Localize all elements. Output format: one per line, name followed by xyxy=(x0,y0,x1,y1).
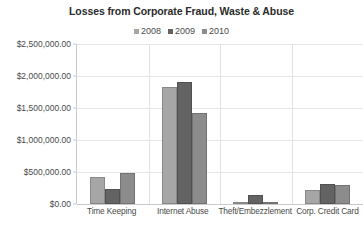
bar-chart: Losses from Corporate Fraud, Waste & Abu… xyxy=(0,0,363,231)
y-axis-tick-label: $1,000,000.00 xyxy=(17,135,71,145)
x-axis-label: Corp. Credit Card xyxy=(292,206,363,216)
legend-item-2010[interactable]: 2010 xyxy=(202,27,229,36)
x-axis-labels: Time KeepingInternet AbuseTheft/Embezzle… xyxy=(76,206,363,216)
y-axis: $2,500,000.00$2,000,000.00$1,500,000.00$… xyxy=(0,44,76,204)
bar-fill xyxy=(120,173,135,204)
legend-label: 2008 xyxy=(141,27,161,36)
chart-title: Losses from Corporate Fraud, Waste & Abu… xyxy=(0,5,363,17)
bar-group xyxy=(220,44,292,204)
x-axis-label: Theft/Embezzlement xyxy=(218,206,291,216)
plot-wrapper: $2,500,000.00$2,000,000.00$1,500,000.00$… xyxy=(0,44,363,204)
y-axis-tick-label: $500,000.00 xyxy=(24,167,71,177)
legend-swatch-icon xyxy=(168,29,173,34)
bar-fill xyxy=(248,195,263,204)
bar-fill xyxy=(335,185,350,204)
bar-fill xyxy=(105,189,120,204)
legend-label: 2010 xyxy=(209,27,229,36)
bar-fill xyxy=(192,113,207,204)
legend-item-2009[interactable]: 2009 xyxy=(168,27,195,36)
chart-legend: 200820092010 xyxy=(0,27,363,36)
y-axis-tick-label: $0.00 xyxy=(50,199,71,209)
bar-fill xyxy=(177,82,192,204)
bar-group xyxy=(149,44,221,204)
bar-fill xyxy=(305,190,320,204)
x-axis-label: Internet Abuse xyxy=(147,206,218,216)
bar-fill xyxy=(320,184,335,204)
bar-fill xyxy=(263,202,278,204)
legend-swatch-icon xyxy=(134,29,139,34)
bar-fill xyxy=(162,87,177,204)
legend-label: 2009 xyxy=(175,27,195,36)
y-axis-tick-label: $2,500,000.00 xyxy=(17,39,71,49)
x-axis-label: Time Keeping xyxy=(76,206,147,216)
bar-fill xyxy=(233,202,248,204)
y-axis-tick-label: $1,500,000.00 xyxy=(17,103,71,113)
axis-baseline xyxy=(77,204,363,205)
legend-swatch-icon xyxy=(202,29,207,34)
bar-groups xyxy=(77,44,363,204)
bar-group xyxy=(77,44,149,204)
plot-area xyxy=(76,44,363,204)
y-axis-tick-label: $2,000,000.00 xyxy=(17,71,71,81)
legend-item-2008[interactable]: 2008 xyxy=(134,27,161,36)
bar-group xyxy=(292,44,363,204)
bar-fill xyxy=(90,177,105,204)
